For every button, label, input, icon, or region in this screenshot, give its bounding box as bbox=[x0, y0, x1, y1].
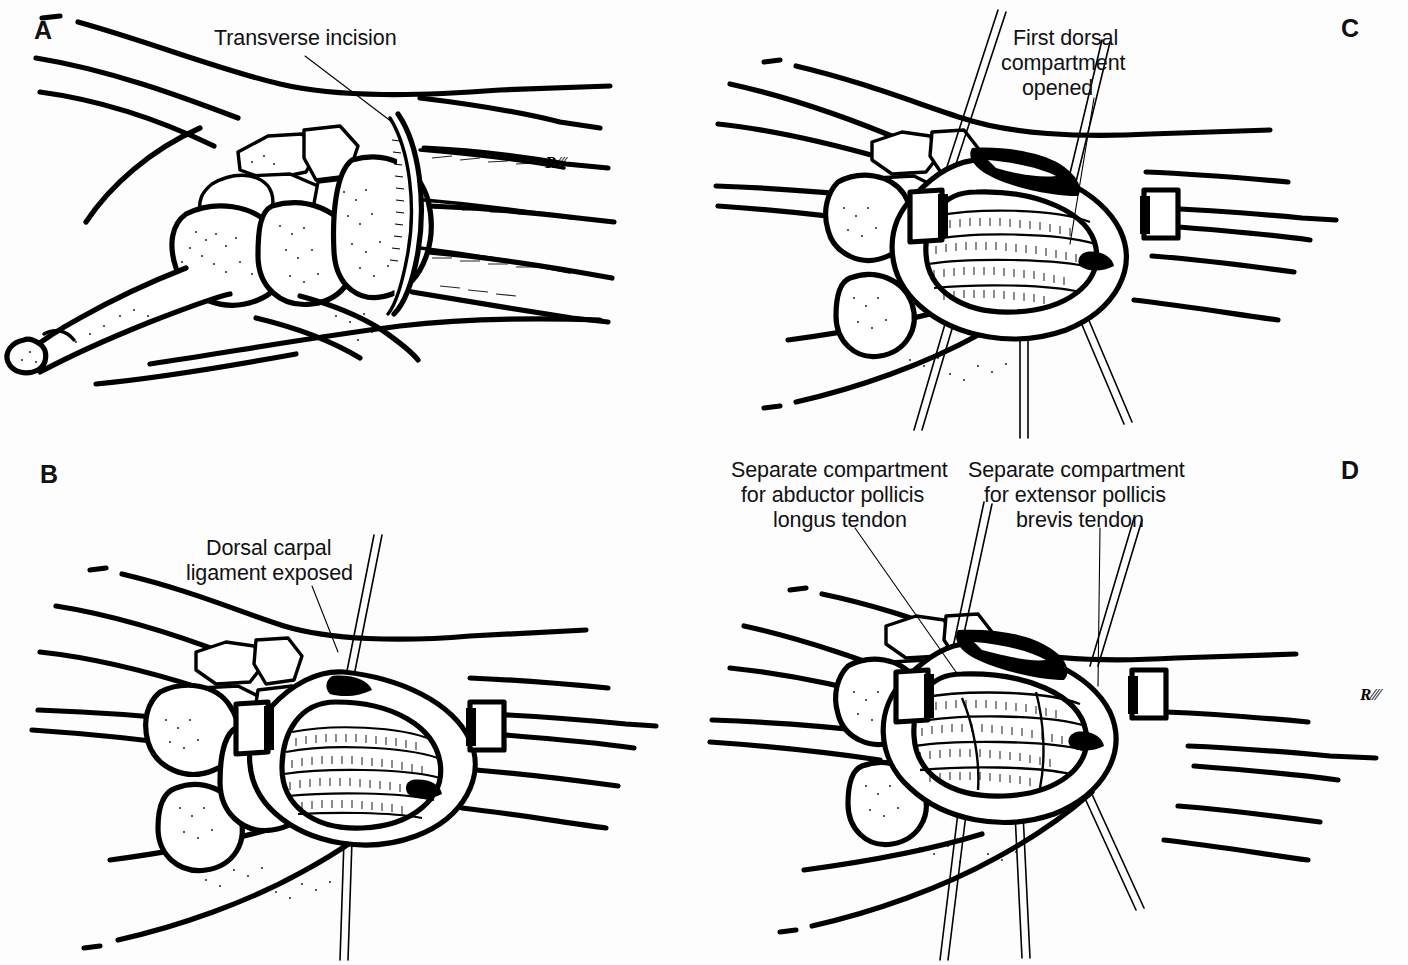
panel-b: B Dorsal carpal ligament exposed bbox=[0, 440, 704, 965]
callout-first-dorsal-compartment-line1: First dorsal bbox=[1013, 26, 1118, 50]
carpal-bones bbox=[7, 126, 431, 373]
panel-b-artwork bbox=[0, 440, 704, 965]
callout-dorsal-carpal-ligament-line1: Dorsal carpal bbox=[206, 536, 331, 560]
surgical-illustration-figure: R⁄⁄⁄ A Transverse incision bbox=[0, 0, 1408, 965]
callout-epb-compartment-line2: for extensor pollicis bbox=[984, 483, 1166, 507]
callout-first-dorsal-compartment-line3: opened bbox=[1022, 76, 1093, 100]
panel-letter-d: D bbox=[1341, 458, 1360, 483]
panel-letter-c: C bbox=[1341, 16, 1360, 41]
artist-signature-d: R⁄⁄⁄ bbox=[1359, 685, 1383, 704]
callout-epb-compartment-line3: brevis tendon bbox=[1016, 508, 1144, 532]
surgical-wound-b bbox=[250, 672, 476, 845]
panel-d: R⁄⁄⁄ D Separate compartment for abductor… bbox=[704, 440, 1408, 965]
panel-letter-b: B bbox=[40, 462, 59, 487]
callout-apl-compartment-line1: Separate compartment bbox=[731, 458, 948, 482]
callout-dorsal-carpal-ligament-line2: ligament exposed bbox=[186, 561, 353, 585]
callout-apl-compartment-line3: longus tendon bbox=[773, 508, 907, 532]
callout-first-dorsal-compartment-line2: compartment bbox=[1001, 51, 1125, 75]
callout-epb-compartment-line1: Separate compartment bbox=[968, 458, 1185, 482]
panel-a-artwork: R⁄⁄⁄ bbox=[0, 0, 704, 440]
panel-letter-a: A bbox=[34, 18, 53, 43]
panel-c: C First dorsal compartment opened bbox=[704, 0, 1408, 440]
callout-transverse-incision: Transverse incision bbox=[214, 26, 397, 50]
callout-apl-compartment-line2: for abductor pollicis bbox=[741, 483, 924, 507]
artist-signature: R⁄⁄⁄ bbox=[544, 153, 568, 172]
panel-a: R⁄⁄⁄ A Transverse incision bbox=[0, 0, 704, 440]
